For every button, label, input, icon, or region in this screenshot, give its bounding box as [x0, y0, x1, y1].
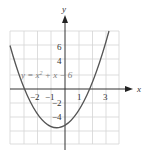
equation-label: y = x2 + x − 6	[20, 70, 73, 80]
y-tick-4: 4	[57, 56, 62, 66]
x-tick-3: 3	[103, 92, 108, 102]
y-tick-6: 6	[57, 42, 62, 52]
axes	[10, 20, 128, 150]
x-axis-label: x	[136, 84, 141, 94]
y-tick-neg2: −2	[52, 98, 62, 108]
y-tick-neg4: −4	[52, 112, 62, 122]
x-tick-neg2: −2	[30, 92, 40, 102]
parabola-graph: y x y = x2 + x − 6 −2 −1 1 3 6 4 −2 −4	[0, 0, 143, 154]
x-axis-arrow-icon	[125, 86, 133, 92]
y-axis-arrow-icon	[62, 15, 68, 23]
y-axis-label: y	[61, 4, 66, 14]
x-tick-1: 1	[77, 92, 82, 102]
